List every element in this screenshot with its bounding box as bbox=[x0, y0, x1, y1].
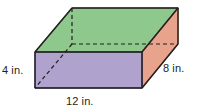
figure-container: 4 in. 12 in. 8 in. bbox=[0, 0, 201, 112]
height-label: 4 in. bbox=[2, 64, 23, 76]
depth-label: 8 in. bbox=[163, 62, 184, 74]
width-label: 12 in. bbox=[66, 95, 94, 107]
rectangular-prism-drawing bbox=[0, 0, 201, 112]
front-face bbox=[35, 52, 142, 88]
